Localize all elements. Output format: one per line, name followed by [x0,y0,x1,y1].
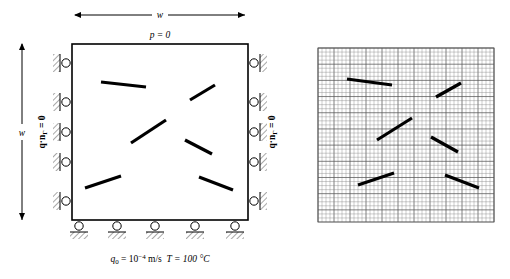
left-boundary-condition-label: q·nΓ = 0 [37,115,49,148]
roller-support [226,222,244,239]
bottom-boundary-condition-label: q0 = 10−4 m/s T = 100 °C [110,253,210,267]
domain-square [72,44,248,220]
top-dimension-label: w [157,10,164,20]
roller-support [250,54,267,72]
roller-support [53,192,70,210]
left-roller-supports [53,54,70,210]
roller-support [146,222,164,239]
right-boundary-condition-label: q·nΓ = 0 [267,115,279,148]
roller-support [250,192,267,210]
roller-support [53,54,70,72]
roller-support [108,222,126,239]
roller-support [250,123,267,141]
roller-support [250,93,267,111]
roller-support [53,93,70,111]
roller-support [70,222,88,239]
left-dimension-arrow: w [14,44,30,220]
figure-root: w w p = 0 [0,0,510,279]
roller-support [53,123,70,141]
roller-support [250,153,267,171]
roller-support [186,222,204,239]
right-roller-supports [250,54,267,210]
top-dimension-arrow: w [75,8,245,22]
left-dimension-label: w [19,128,26,138]
roller-support [53,153,70,171]
bottom-roller-supports [70,222,244,239]
technical-diagram: w w p = 0 [0,0,510,279]
right-panel [318,48,494,222]
left-panel: w w p = 0 [14,8,279,266]
top-boundary-condition-label: p = 0 [149,30,171,40]
